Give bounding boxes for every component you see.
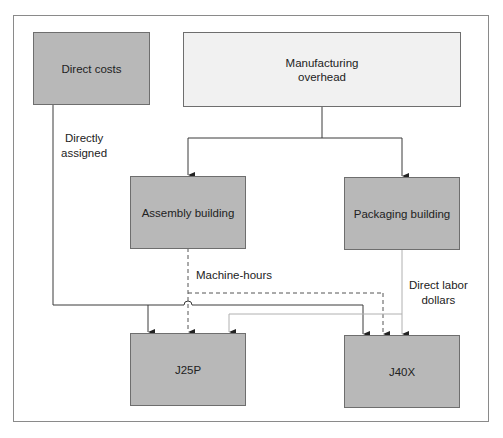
assembly-building-label: Assembly building	[142, 206, 235, 220]
directly-assigned-line1: Directly	[61, 131, 107, 146]
manufacturing-overhead-label-line2: overhead	[298, 70, 346, 84]
assembly-building-node: Assembly building	[130, 176, 246, 249]
directly-assigned-line2: assigned	[61, 146, 107, 161]
directly-assigned-label: Directly assigned	[61, 131, 107, 161]
j40x-label: J40X	[389, 365, 415, 379]
j25p-node: J25P	[130, 333, 246, 406]
j25p-label: J25P	[175, 363, 201, 377]
machine-hours-connector	[188, 248, 383, 334]
direct-labor-line1: Direct labor	[409, 278, 468, 293]
overhead-connector	[188, 106, 402, 176]
manufacturing-overhead-label-line1: Manufacturing	[286, 56, 359, 70]
direct-labor-line2: dollars	[409, 293, 468, 308]
direct-labor-dollars-label: Direct labor dollars	[409, 278, 468, 308]
packaging-building-label: Packaging building	[354, 207, 451, 221]
direct-labor-connector	[229, 249, 402, 334]
direct-costs-node: Direct costs	[33, 32, 150, 105]
manufacturing-overhead-node: Manufacturing overhead	[183, 32, 461, 107]
packaging-building-node: Packaging building	[344, 177, 460, 250]
j40x-node: J40X	[344, 335, 460, 408]
direct-costs-label: Direct costs	[61, 62, 121, 76]
machine-hours-label: Machine-hours	[196, 268, 272, 283]
